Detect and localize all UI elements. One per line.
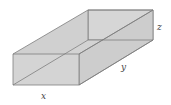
label-x: x bbox=[41, 91, 46, 101]
label-y: y bbox=[120, 62, 127, 72]
front-face bbox=[13, 54, 79, 85]
box-diagram: x y z bbox=[0, 0, 171, 105]
label-z: z bbox=[156, 22, 162, 32]
